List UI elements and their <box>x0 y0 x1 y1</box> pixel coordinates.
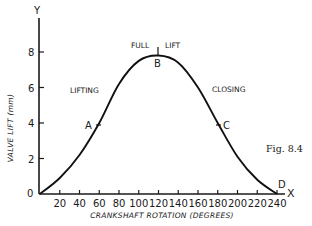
x-tick-label: 220 <box>248 198 267 209</box>
x-tick-label: 40 <box>73 198 86 209</box>
y-axis-title: VALVE LIFT (mm) <box>6 94 15 162</box>
x-axis-title: CRANKSHAFT ROTATION (DEGREES) <box>90 211 234 220</box>
lift-annotation: LIFT <box>165 41 181 50</box>
x-ticks: 20406080100120140160180200220240 <box>53 190 286 209</box>
full-annotation: FULL <box>131 41 150 50</box>
y-tick-label: 6 <box>28 83 34 94</box>
x-tick-label: 140 <box>169 198 188 209</box>
chart-canvas: Y X 0 2468 20406080100120140160180200220… <box>0 0 312 226</box>
x-tick-label: 240 <box>267 198 286 209</box>
x-tick-label: 100 <box>129 198 148 209</box>
point-b-label: B <box>154 58 161 69</box>
y-tick-label: 2 <box>28 154 34 165</box>
x-tick-label: 60 <box>93 198 106 209</box>
valve-lift-chart: Y X 0 2468 20406080100120140160180200220… <box>0 0 312 226</box>
y-ticks: 2468 <box>28 47 44 165</box>
lifting-annotation: LIFTING <box>70 86 99 95</box>
x-tick-label: 120 <box>149 198 168 209</box>
point-a-label: A <box>85 120 92 131</box>
origin-label: 0 <box>27 188 33 199</box>
x-tick-label: 80 <box>113 198 126 209</box>
x-tick-label: 200 <box>228 198 247 209</box>
y-tick-label: 4 <box>28 118 34 129</box>
point-d-label: D <box>278 179 286 190</box>
y-axis-letter: Y <box>33 5 41 16</box>
x-tick-label: 180 <box>208 198 227 209</box>
x-axis-letter: X <box>287 187 295 200</box>
closing-annotation: CLOSING <box>212 85 246 94</box>
valve-lift-curve <box>40 55 277 194</box>
point-c-label: C <box>223 120 230 131</box>
x-tick-label: 20 <box>53 198 66 209</box>
figure-label: Fig. 8.4 <box>266 143 303 154</box>
x-tick-label: 160 <box>188 198 207 209</box>
y-tick-label: 8 <box>28 47 34 58</box>
